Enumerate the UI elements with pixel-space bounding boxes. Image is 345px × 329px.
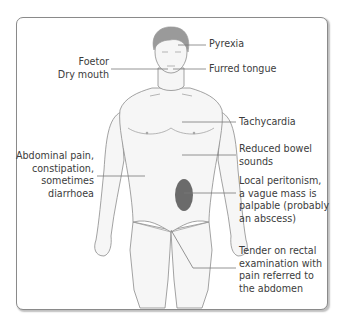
label-local-peritonism: Local peritonism, a vague mass is palpab… bbox=[239, 175, 329, 225]
label-furred-tongue: Furred tongue bbox=[209, 63, 276, 76]
label-pyrexia: Pyrexia bbox=[209, 38, 244, 51]
label-dry-mouth: Dry mouth bbox=[58, 69, 109, 82]
label-tachycardia: Tachycardia bbox=[239, 116, 296, 129]
abscess-mass bbox=[175, 179, 193, 211]
label-abdominal-pain: Abdominal pain, constipation, sometimes … bbox=[16, 150, 94, 200]
label-rectal-tenderness: Tender on rectal examination with pain r… bbox=[239, 245, 322, 295]
label-reduced-bowel-sounds: Reduced bowel sounds bbox=[239, 143, 312, 168]
label-foetor: Foetor bbox=[78, 56, 109, 69]
